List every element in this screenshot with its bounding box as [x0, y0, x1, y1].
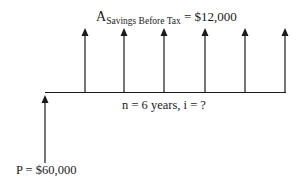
annuity-value: = $12,000	[181, 9, 237, 24]
cash-flow-diagram	[0, 0, 299, 182]
annuity-subscript: Savings Before Tax	[106, 16, 181, 26]
present-value-arrow	[42, 95, 49, 163]
timeline-label: n = 6 years, i = ?	[122, 99, 206, 112]
present-value-label: P = $60,000	[16, 164, 76, 177]
annuity-symbol: A	[96, 9, 106, 24]
annuity-label: ASavings Before Tax = $12,000	[96, 10, 237, 24]
annuity-arrows	[82, 28, 289, 92]
